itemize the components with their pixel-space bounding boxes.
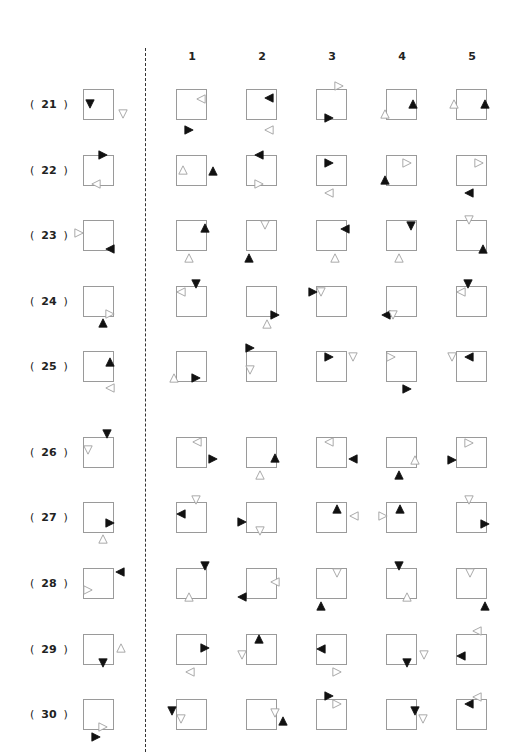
option-triangle-down-outline-icon	[447, 352, 457, 362]
question-triangle-right-outline-icon	[98, 722, 108, 732]
option-triangle-down-outline-icon	[255, 526, 265, 536]
option-triangle-up-filled-icon	[395, 504, 405, 514]
question-number: ( 21 )	[30, 98, 80, 111]
column-header-1: 1	[182, 50, 202, 63]
column-header-4: 4	[392, 50, 412, 63]
question-number-value: 27	[41, 511, 56, 524]
option-triangle-down-outline-icon	[418, 714, 428, 724]
option-triangle-up-filled-icon	[478, 244, 488, 254]
option-triangle-right-outline-icon	[332, 667, 342, 677]
option-triangle-right-filled-icon	[480, 519, 490, 529]
question-number-value: 30	[41, 708, 56, 721]
column-header-2: 2	[252, 50, 272, 63]
option-triangle-down-outline-icon	[464, 215, 474, 225]
question-triangle-right-outline-icon	[83, 585, 93, 595]
option-triangle-up-outline-icon	[255, 470, 265, 480]
option-triangle-up-filled-icon	[254, 634, 264, 644]
question-triangle-right-outline-icon	[74, 228, 84, 238]
option-triangle-right-filled-icon	[324, 113, 334, 123]
option-triangle-left-outline-icon	[270, 577, 280, 587]
option-triangle-left-outline-icon	[264, 125, 274, 135]
question-triangle-left-outline-icon	[105, 383, 115, 393]
option-triangle-left-filled-icon	[348, 454, 358, 464]
option-triangle-up-filled-icon	[394, 470, 404, 480]
option-triangle-right-filled-icon	[200, 643, 210, 653]
option-triangle-down-outline-icon	[245, 365, 255, 375]
question-triangle-down-filled-icon	[98, 658, 108, 668]
option-triangle-right-filled-icon	[191, 373, 201, 383]
option-triangle-left-outline-icon	[196, 94, 206, 104]
option-triangle-down-outline-icon	[419, 650, 429, 660]
question-number: ( 24 )	[30, 295, 80, 308]
option-triangle-left-filled-icon	[464, 188, 474, 198]
question-triangle-right-filled-icon	[91, 732, 101, 742]
option-triangle-right-outline-icon	[402, 158, 412, 168]
option-triangle-up-filled-icon	[200, 223, 210, 233]
question-triangle-down-outline-icon	[83, 445, 93, 455]
question-number-value: 28	[41, 577, 56, 590]
option-triangle-down-filled-icon	[463, 279, 473, 289]
option-triangle-right-outline-icon	[332, 699, 342, 709]
option-triangle-left-outline-icon	[176, 287, 186, 297]
option-triangle-up-outline-icon	[394, 253, 404, 263]
option-triangle-down-outline-icon	[465, 568, 475, 578]
option-triangle-right-filled-icon	[324, 352, 334, 362]
option-triangle-up-outline-icon	[449, 99, 459, 109]
option-triangle-down-outline-icon	[464, 495, 474, 505]
option-triangle-up-outline-icon	[184, 592, 194, 602]
option-triangle-left-outline-icon	[185, 667, 195, 677]
column-header-5: 5	[462, 50, 482, 63]
option-triangle-down-outline-icon	[176, 714, 186, 724]
option-triangle-up-filled-icon	[408, 99, 418, 109]
option-triangle-down-outline-icon	[348, 352, 358, 362]
option-triangle-down-outline-icon	[332, 568, 342, 578]
question-triangle-left-filled-icon	[105, 244, 115, 254]
question-triangle-up-outline-icon	[98, 534, 108, 544]
question-number: ( 27 )	[30, 511, 80, 524]
option-triangle-left-outline-icon	[472, 626, 482, 636]
question-triangle-right-filled-icon	[98, 150, 108, 160]
option-triangle-left-filled-icon	[237, 592, 247, 602]
option-triangle-left-filled-icon	[464, 699, 474, 709]
option-triangle-right-filled-icon	[324, 158, 334, 168]
option-triangle-right-outline-icon	[464, 438, 474, 448]
option-triangle-up-outline-icon	[402, 592, 412, 602]
option-triangle-up-filled-icon	[480, 601, 490, 611]
option-triangle-up-outline-icon	[330, 253, 340, 263]
option-triangle-up-outline-icon	[262, 319, 272, 329]
option-triangle-right-outline-icon	[386, 352, 396, 362]
option-triangle-left-filled-icon	[464, 352, 474, 362]
option-triangle-down-filled-icon	[191, 279, 201, 289]
option-triangle-right-outline-icon	[378, 511, 388, 521]
option-triangle-up-filled-icon	[380, 175, 390, 185]
question-number-value: 29	[41, 643, 56, 656]
option-triangle-up-outline-icon	[178, 165, 188, 175]
question-number-value: 26	[41, 446, 56, 459]
question-triangle-up-outline-icon	[116, 643, 126, 653]
option-triangle-down-filled-icon	[394, 561, 404, 571]
option-triangle-down-outline-icon	[191, 495, 201, 505]
question-triangle-up-filled-icon	[98, 318, 108, 328]
question-number: ( 26 )	[30, 446, 80, 459]
option-triangle-down-outline-icon	[237, 650, 247, 660]
question-number-value: 21	[41, 98, 56, 111]
option-triangle-up-filled-icon	[270, 453, 280, 463]
option-triangle-up-outline-icon	[410, 455, 420, 465]
dashed-divider	[145, 48, 146, 752]
option-triangle-left-outline-icon	[192, 437, 202, 447]
column-header-3: 3	[322, 50, 342, 63]
option-triangle-down-outline-icon	[388, 310, 398, 320]
option-triangle-up-filled-icon	[278, 716, 288, 726]
option-triangle-left-filled-icon	[340, 224, 350, 234]
question-triangle-left-filled-icon	[115, 567, 125, 577]
question-number-value: 24	[41, 295, 56, 308]
option-triangle-down-filled-icon	[402, 658, 412, 668]
option-triangle-down-outline-icon	[316, 287, 326, 297]
question-number: ( 22 )	[30, 164, 80, 177]
option-triangle-right-filled-icon	[402, 384, 412, 394]
option-triangle-up-filled-icon	[244, 253, 254, 263]
option-triangle-left-filled-icon	[254, 150, 264, 160]
option-triangle-down-filled-icon	[200, 561, 210, 571]
option-triangle-right-outline-icon	[254, 179, 264, 189]
question-triangle-right-filled-icon	[105, 518, 115, 528]
